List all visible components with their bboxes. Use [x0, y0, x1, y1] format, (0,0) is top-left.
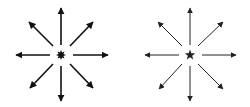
star-icon — [185, 50, 195, 60]
arrow-up-right-icon — [70, 22, 93, 46]
starburst-icon — [56, 50, 66, 60]
arrow-down-right-icon — [198, 64, 223, 89]
diagram-canvas — [0, 0, 250, 107]
star-figure — [145, 8, 236, 101]
arrow-up-left-icon — [29, 22, 53, 46]
arrow-up-right-icon — [198, 22, 223, 46]
arrow-down-left-icon — [159, 64, 182, 89]
arrow-down-left-icon — [30, 64, 53, 88]
arrow-up-left-icon — [158, 22, 182, 46]
arrow-down-right-icon — [70, 64, 93, 88]
starburst-figure — [16, 8, 108, 101]
